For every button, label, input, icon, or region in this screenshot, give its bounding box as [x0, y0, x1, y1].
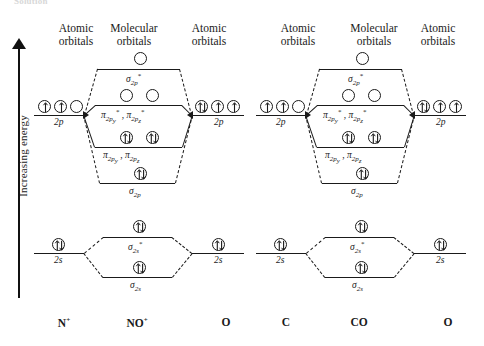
- correlation-right-sigma-2s-star: [393, 237, 414, 254]
- electron-left-2p-2: [276, 100, 289, 113]
- mo-level-sigma-2p-star: [319, 69, 402, 70]
- electron-left-2p-3: [292, 100, 305, 113]
- correlation-left-sigma-2s-star: [306, 237, 326, 254]
- molecule-label-molecule: CO: [324, 316, 394, 328]
- electron-left-2s-1: [274, 238, 287, 251]
- mo-level-sigma-2s-star: [325, 237, 394, 238]
- atomic-level-left-2s: [256, 253, 306, 254]
- electron-sigma-2s-1: [355, 261, 368, 274]
- electron-pi-bonding-2: [368, 131, 381, 144]
- mo-level-sigma-2p: [322, 183, 397, 184]
- label-left-2s: 2s: [276, 255, 284, 265]
- label-pi-bonding: π2py , π2pz: [325, 150, 362, 165]
- correlation-left-sigma-2s: [305, 253, 325, 278]
- electron-left-2p-1: [260, 100, 273, 113]
- mo-level-sigma-2s: [325, 277, 394, 278]
- convergence-marker-right-2p: [409, 111, 415, 119]
- electron-pi-star-2: [368, 89, 381, 102]
- label-right-2p: 2p: [436, 117, 446, 127]
- label-left-2p: 2p: [276, 117, 286, 127]
- mo-diagram-co: 2p2p2s2sσ2p*π2py* , π2pz*π2py , π2pzσ2pσ…: [0, 0, 484, 346]
- electron-pi-star-1: [342, 89, 355, 102]
- electron-sigma-2p-star-1: [356, 52, 369, 65]
- label-sigma-2p: σ2p: [351, 186, 363, 199]
- label-sigma-2p-star: σ2p*: [348, 72, 363, 87]
- atomic-level-right-2s: [414, 253, 466, 254]
- electron-right-2p-3: [449, 100, 462, 113]
- label-right-2s: 2s: [436, 255, 444, 265]
- molecule-label-left-atom: C: [251, 316, 321, 328]
- electron-right-2p-1: [417, 100, 430, 113]
- electron-right-2s-1: [434, 238, 447, 251]
- atomic-level-left-2p: [256, 115, 306, 116]
- atomic-level-right-2p: [414, 115, 466, 116]
- mo-level-pi-star: [317, 105, 404, 106]
- label-sigma-2s: σ2s: [352, 280, 363, 293]
- molecule-label-right-atom: O: [413, 316, 483, 328]
- correlation-right-sigma-2s: [394, 253, 415, 278]
- correlation-right-sigma-2p: [397, 115, 415, 183]
- label-sigma-2s-star: σ2s*: [350, 240, 364, 255]
- correlation-right-pi-bonding: [404, 115, 415, 147]
- electron-sigma-2s-star-1: [355, 220, 368, 233]
- electron-pi-bonding-1: [342, 131, 355, 144]
- electron-right-2p-2: [433, 100, 446, 113]
- label-pi-star: π2py* , π2pz*: [323, 108, 367, 125]
- convergence-marker-left-2p: [305, 111, 311, 119]
- electron-sigma-2p-1: [356, 167, 369, 180]
- mo-diagram-figure: Solution Increasing energy Atomic orbita…: [0, 0, 484, 346]
- mo-level-pi-bonding: [317, 147, 404, 148]
